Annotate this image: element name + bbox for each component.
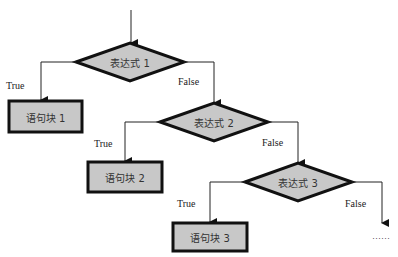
block-2-label: 语句块 2 [88, 170, 162, 185]
edge-label-d1-false: False [178, 76, 199, 87]
decision-1-label: 表达式 1 [100, 55, 160, 70]
flowchart-canvas: 表达式 1 表达式 2 表达式 3 语句块 1 语句块 2 语句块 3 True… [0, 0, 398, 257]
edge-label-d3-false: False [345, 198, 366, 209]
block-1-label: 语句块 1 [9, 110, 82, 125]
continuation-ellipsis: …… [372, 231, 390, 241]
decision-2-label: 表达式 2 [184, 115, 244, 130]
edge-d3-true [210, 182, 245, 222]
edge-d2-true [125, 122, 160, 161]
edge-label-d2-false: False [262, 137, 283, 148]
edge-label-d3-true: True [177, 198, 196, 209]
edge-label-d1-true: True [6, 80, 25, 91]
decision-3-label: 表达式 3 [268, 175, 328, 190]
edge-label-d2-true: True [94, 138, 113, 149]
block-3-label: 语句块 3 [173, 230, 247, 245]
edge-d1-true [41, 62, 76, 100]
